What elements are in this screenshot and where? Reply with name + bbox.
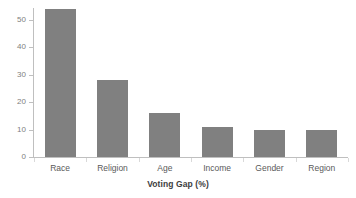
bars-layer bbox=[34, 8, 348, 157]
bar bbox=[45, 9, 76, 157]
y-tick-mark bbox=[29, 47, 33, 48]
x-tick-mark bbox=[243, 158, 244, 162]
y-tick-mark bbox=[29, 20, 33, 21]
x-category-label: Age bbox=[139, 163, 191, 174]
x-category-label: Race bbox=[34, 163, 86, 174]
bar bbox=[254, 130, 285, 157]
y-tick-label: 10 bbox=[0, 124, 26, 135]
x-tick-mark bbox=[34, 158, 35, 162]
bar bbox=[202, 127, 233, 157]
x-tick-mark bbox=[86, 158, 87, 162]
y-tick-label: 40 bbox=[0, 41, 26, 52]
bar bbox=[97, 80, 128, 157]
x-tick-mark bbox=[139, 158, 140, 162]
bar bbox=[149, 113, 180, 157]
y-tick-label: 30 bbox=[0, 69, 26, 80]
y-tick-label: 20 bbox=[0, 96, 26, 107]
x-category-label: Religion bbox=[86, 163, 138, 174]
y-tick-mark bbox=[29, 130, 33, 131]
y-tick-label: 50 bbox=[0, 14, 26, 25]
y-tick-label: 0 bbox=[0, 151, 26, 162]
x-tick-mark bbox=[191, 158, 192, 162]
x-category-label: Region bbox=[296, 163, 348, 174]
y-tick-mark bbox=[29, 102, 33, 103]
bar bbox=[306, 130, 337, 157]
x-category-label: Gender bbox=[243, 163, 295, 174]
y-tick-mark bbox=[29, 75, 33, 76]
x-category-label: Income bbox=[191, 163, 243, 174]
x-tick-mark bbox=[296, 158, 297, 162]
y-tick-mark bbox=[29, 157, 33, 158]
bar-chart: 01020304050 RaceReligionAgeIncomeGenderR… bbox=[0, 0, 356, 198]
x-axis-title: Voting Gap (%) bbox=[0, 179, 356, 189]
x-tick-mark bbox=[348, 158, 349, 162]
